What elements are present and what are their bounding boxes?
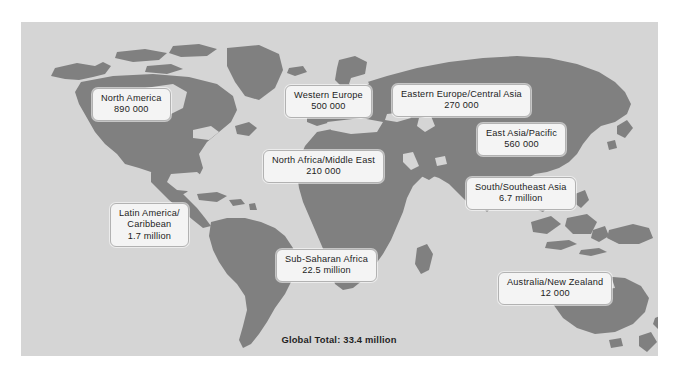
- callout-eastern-europe-central-asia[interactable]: Eastern Europe/Central Asia 270 000: [392, 84, 531, 117]
- callout-region-label: Sub-Saharan Africa: [285, 254, 368, 265]
- landmass-alaska: [51, 62, 111, 80]
- callout-region-label: North Africa/Middle East: [272, 155, 375, 166]
- callout-region-label-line2: Caribbean: [119, 219, 180, 230]
- callout-value-label: 22.5 million: [285, 265, 368, 276]
- callout-western-europe[interactable]: Western Europe 500 000: [285, 85, 372, 118]
- callout-region-label: Australia/New Zealand: [507, 277, 603, 288]
- landmass-madagascar: [415, 244, 433, 274]
- landmass-newfoundland: [235, 122, 257, 136]
- callout-latin-america-caribbean[interactable]: Latin America/ Caribbean 1.7 million: [110, 203, 189, 247]
- landmass-sumatra: [531, 216, 561, 234]
- callout-region-label: North America: [101, 93, 162, 104]
- landmass-greenland: [227, 45, 283, 100]
- landmass-caribbean-hispaniola: [229, 199, 245, 206]
- landmass-borneo: [565, 214, 597, 234]
- landmass-caribbean-lesser: [249, 203, 257, 210]
- callout-value-label: 270 000: [401, 100, 522, 111]
- landmass-south-america: [209, 218, 297, 348]
- landmass-new-guinea: [607, 224, 653, 244]
- callout-value-label: 890 000: [101, 104, 162, 115]
- callout-value-label: 6.7 million: [475, 193, 567, 204]
- landmass-arctic-islands-1: [115, 49, 167, 62]
- landmass-arctic-islands-3: [145, 64, 183, 74]
- callout-value-label: 210 000: [272, 166, 375, 177]
- callout-value-label: 560 000: [486, 139, 557, 150]
- callout-value-label: 500 000: [294, 101, 363, 112]
- landmass-caribbean-cuba: [197, 192, 227, 202]
- landmass-new-zealand-north: [653, 314, 658, 330]
- callout-north-africa-middle-east[interactable]: North Africa/Middle East 210 000: [263, 150, 384, 183]
- landmass-iceland: [287, 66, 307, 76]
- callout-south-southeast-asia[interactable]: South/Southeast Asia 6.7 million: [466, 177, 576, 210]
- world-map-figure: North America 890 000 Western Europe 500…: [0, 0, 678, 378]
- callout-value-label: 12 000: [507, 288, 603, 299]
- callout-value-label: 1.7 million: [119, 231, 180, 242]
- landmass-java: [545, 240, 577, 250]
- callout-australia-new-zealand[interactable]: Australia/New Zealand 12 000: [498, 272, 612, 305]
- callout-region-label-line1: Latin America/: [119, 208, 180, 219]
- callout-region-label: Eastern Europe/Central Asia: [401, 89, 522, 100]
- landmass-indonesia-islands: [579, 248, 607, 256]
- landmass-japan-2: [607, 140, 617, 150]
- landmass-arctic-islands-2: [169, 44, 217, 57]
- callout-region-label: Western Europe: [294, 90, 363, 101]
- callout-sub-saharan-africa[interactable]: Sub-Saharan Africa 22.5 million: [276, 249, 377, 282]
- callout-north-america[interactable]: North America 890 000: [92, 88, 171, 121]
- callout-region-label: South/Southeast Asia: [475, 182, 567, 193]
- global-total-label: Global Total: 33.4 million: [0, 334, 678, 345]
- landmass-japan-1: [617, 120, 633, 138]
- callout-east-asia-pacific[interactable]: East Asia/Pacific 560 000: [477, 123, 566, 156]
- callout-region-label: East Asia/Pacific: [486, 128, 557, 139]
